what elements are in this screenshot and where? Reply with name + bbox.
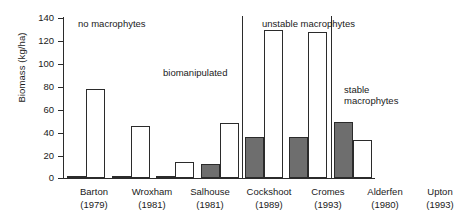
bar-dark-salhouse: [156, 176, 175, 178]
x-label-year: (1993): [297, 199, 359, 212]
group-separator-2: [331, 16, 332, 178]
y-tick-label-60: 60: [14, 105, 54, 115]
x-label-year: (1980): [352, 199, 418, 212]
bar-dark-wroxham: [112, 176, 131, 178]
x-label-name: Upton: [412, 186, 458, 199]
bar-white-alderfen: [308, 32, 327, 178]
y-tick-label-40: 40: [14, 128, 54, 138]
x-label-year: (1979): [64, 199, 124, 212]
x-label-wroxham: Wroxham (1981): [121, 186, 183, 211]
y-tick-label-120: 120: [14, 36, 54, 46]
plot-area: [64, 17, 375, 178]
x-label-year: (1981): [179, 199, 241, 212]
x-label-year: (1989): [234, 199, 304, 212]
group-separator-1: [242, 16, 243, 178]
bar-white-upton: [353, 140, 372, 178]
y-tick-label-80: 80: [14, 82, 54, 92]
x-label-name: Wroxham: [121, 186, 183, 199]
bar-dark-alderfen: [289, 137, 308, 178]
annotation-stable-line2: macrophytes: [344, 95, 398, 106]
x-label-cockshoot: Cockshoot (1989): [234, 186, 304, 211]
annotation-no-macrophytes: no macrophytes: [78, 18, 146, 29]
bar-dark-cockshoot: [201, 164, 220, 178]
bar-dark-cromes: [245, 137, 264, 178]
y-tick-label-20: 20: [14, 151, 54, 161]
bar-white-barton: [86, 89, 105, 178]
x-label-year: (1993): [412, 199, 458, 212]
annotation-stable-line1: stable: [344, 84, 369, 95]
x-label-name: Cromes: [297, 186, 359, 199]
bar-white-wroxham: [131, 126, 150, 178]
x-label-cromes: Cromes (1993): [297, 186, 359, 211]
y-tick-label-140: 140: [14, 13, 54, 23]
x-axis-line: [63, 178, 375, 179]
bar-white-salhouse: [175, 162, 194, 178]
annotation-biomanipulated: biomanipulated: [163, 67, 227, 78]
bar-white-cromes: [264, 30, 283, 178]
x-label-name: Barton: [64, 186, 124, 199]
x-label-salhouse: Salhouse (1981): [179, 186, 241, 211]
bar-white-cockshoot: [220, 123, 239, 178]
x-label-name: Alderfen: [352, 186, 418, 199]
x-label-barton: Barton (1979): [64, 186, 124, 211]
x-label-year: (1981): [121, 199, 183, 212]
y-tick-0: [58, 178, 64, 179]
x-label-upton: Upton (1993): [412, 186, 458, 211]
x-label-name: Salhouse: [179, 186, 241, 199]
x-label-name: Cockshoot: [234, 186, 304, 199]
bar-dark-upton: [334, 122, 353, 178]
x-label-alderfen: Alderfen (1980): [352, 186, 418, 211]
annotation-unstable-macrophytes: unstable macrophytes: [262, 18, 355, 29]
bar-dark-barton: [67, 176, 86, 178]
y-tick-label-100: 100: [14, 59, 54, 69]
y-tick-label-0: 0: [14, 173, 54, 183]
